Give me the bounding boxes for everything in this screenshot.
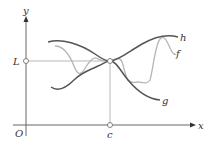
- curve-f-label: f: [175, 48, 182, 59]
- c-label: c: [107, 129, 113, 140]
- y-axis-label: y: [22, 5, 29, 16]
- squeeze-point-marker: [108, 59, 113, 64]
- origin-label: O: [15, 128, 23, 139]
- squeeze-theorem-diagram: y x O L c h f g: [0, 0, 211, 148]
- limit-point-marker: [24, 59, 29, 64]
- limit-label: L: [12, 56, 20, 67]
- y-axis-arrow-icon: [24, 16, 29, 22]
- axes: [13, 16, 196, 136]
- curve-h-label: h: [180, 32, 186, 43]
- x-axis-label: x: [198, 120, 204, 131]
- curve-g: [51, 61, 160, 100]
- guide-lines: [26, 61, 110, 125]
- curve-g-label: g: [162, 95, 168, 106]
- x-axis-arrow-icon: [190, 123, 196, 128]
- c-point-marker: [108, 123, 113, 128]
- curve-h: [48, 36, 178, 61]
